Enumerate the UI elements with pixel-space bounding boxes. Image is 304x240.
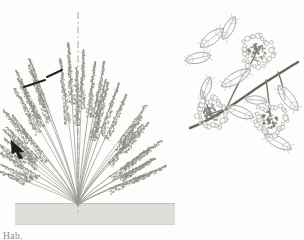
spike-floret: [75, 76, 76, 77]
spike-floret: [144, 154, 146, 156]
spike-floret: [38, 114, 40, 116]
spike-floret: [24, 141, 26, 143]
spike-floret: [152, 158, 153, 159]
spike-floret: [110, 108, 111, 109]
spike-floret: [16, 122, 18, 124]
spike-floret: [112, 100, 113, 101]
spike-floret: [24, 95, 26, 97]
spike-floret: [70, 92, 72, 94]
spike-floret: [126, 181, 128, 183]
spike-floret: [101, 76, 102, 77]
spike-floret: [64, 92, 65, 93]
spike-floret: [5, 173, 6, 174]
spike-floret: [128, 141, 129, 142]
spike-floret: [39, 97, 41, 99]
spike-floret: [103, 70, 104, 71]
spike-floret: [28, 120, 29, 121]
spike-floret: [106, 120, 107, 121]
spike-floret: [33, 178, 35, 180]
spike-floret: [42, 158, 43, 159]
spike-floret: [114, 190, 115, 191]
spike-floret: [39, 83, 40, 84]
spike-floret: [104, 83, 105, 84]
spike-floret: [39, 87, 41, 89]
spike-floret: [5, 155, 6, 156]
spike-floret: [132, 130, 133, 131]
spike-floret: [138, 166, 140, 168]
spike-floret: [110, 114, 112, 116]
spike-floret: [92, 73, 93, 74]
spike-floret: [111, 190, 112, 191]
spike-floret: [32, 64, 33, 65]
spike-floret: [119, 148, 120, 149]
spike-floret: [23, 178, 25, 180]
spike-floret: [4, 147, 5, 148]
spike-floret: [23, 130, 25, 132]
spike-floret: [112, 104, 113, 105]
spike-floret: [127, 143, 129, 145]
spike-floret: [76, 71, 77, 72]
spike-floret: [42, 125, 44, 127]
spike-floret: [132, 166, 133, 167]
floret: [243, 44, 247, 48]
spike-floret: [122, 139, 124, 141]
spike-floret: [118, 86, 119, 87]
spike-floret: [71, 103, 72, 104]
spike-floret: [64, 102, 65, 103]
spike-floret: [16, 138, 17, 139]
flowering-branch-detail: [182, 0, 304, 240]
floret: [267, 134, 270, 137]
spike-floret: [138, 121, 139, 122]
spike-floret: [9, 159, 11, 161]
spike-floret: [70, 118, 71, 119]
spike-floret: [102, 100, 103, 101]
spike-floret: [24, 167, 25, 168]
spike-floret: [133, 171, 134, 172]
spike-floret: [3, 174, 5, 176]
spike-floret: [37, 167, 38, 168]
floret: [204, 107, 207, 110]
spike-floret: [127, 129, 129, 131]
spike-floret: [36, 110, 37, 111]
spike-floret: [130, 163, 131, 164]
spike-floret: [14, 180, 15, 181]
spike-floret: [30, 112, 32, 114]
spike-floret: [94, 139, 96, 141]
spike-floret: [7, 115, 8, 116]
floret: [252, 54, 254, 56]
spike-floret: [108, 121, 110, 123]
spike-floret: [43, 97, 44, 98]
spike-floret: [22, 158, 23, 159]
spike-floret: [30, 137, 32, 139]
spike-floret: [114, 98, 116, 100]
spike-floret: [134, 171, 135, 172]
spike-floret: [123, 174, 124, 175]
spike-floret: [44, 95, 46, 97]
spike-floret: [137, 130, 138, 131]
spike-floret: [76, 67, 78, 69]
spike-floret: [115, 116, 116, 117]
spike-floret: [109, 110, 111, 112]
spike-floret: [27, 111, 28, 112]
spike-floret: [64, 119, 66, 121]
spike-floret: [33, 69, 35, 71]
spike-floret: [88, 109, 89, 110]
spike-floret: [39, 102, 41, 104]
spike-floret: [35, 90, 37, 92]
spike-floret: [78, 82, 79, 83]
spike-floret: [39, 155, 40, 156]
spike-floret: [82, 63, 83, 64]
spike-floret: [39, 103, 41, 105]
spike-floret: [13, 177, 14, 178]
spike-floret: [62, 84, 64, 86]
floret: [206, 112, 209, 115]
spike-floret: [82, 90, 83, 91]
floret: [245, 36, 250, 41]
spike-floret: [25, 94, 26, 95]
spike-floret: [97, 111, 98, 112]
spike-floret: [21, 103, 22, 104]
spike-floret: [40, 156, 41, 157]
spike-floret: [22, 93, 23, 94]
spike-floret: [45, 110, 46, 111]
spike-floret: [20, 124, 21, 125]
